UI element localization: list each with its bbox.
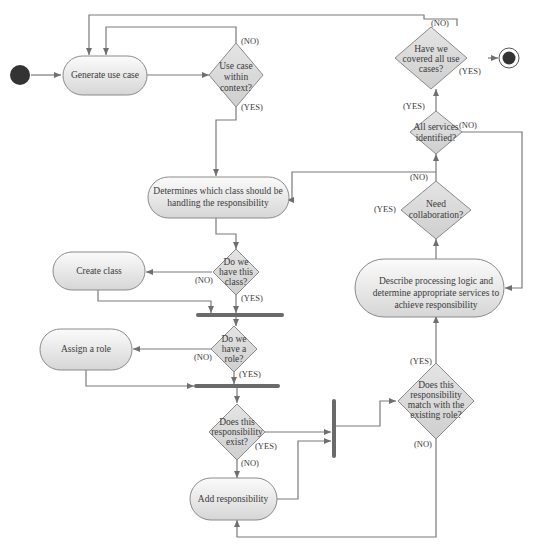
label-line-1: Does this	[418, 380, 454, 390]
label-line-4: existing role?	[410, 410, 461, 420]
label-line-2: responsibility	[410, 390, 462, 400]
action-generate-use-case: Generate use case	[63, 56, 147, 95]
label-line-1: Have we	[414, 44, 448, 54]
label-line-3: class?	[225, 277, 248, 287]
label-line-3: role?	[225, 354, 244, 364]
action-determines-class: Determines which class should be handlin…	[148, 177, 289, 218]
decision-match-existing-role: Does this responsibility match with the …	[398, 363, 474, 439]
label: Assign a role	[61, 344, 111, 354]
label-line-3: match with the	[408, 400, 464, 410]
edge-determines-to-class	[216, 217, 236, 249]
label-role-yes: (YES)	[239, 369, 261, 379]
label-covered-no: (NO)	[431, 18, 449, 28]
label: Create class	[76, 266, 122, 276]
initial-node	[10, 65, 30, 85]
label-match-yes: (YES)	[410, 356, 432, 366]
label-exist-yes: (YES)	[255, 441, 277, 451]
label-line-1: Use case	[219, 61, 253, 71]
decision-all-services-identified: All services identified?	[410, 111, 462, 154]
label-line-1: All services	[413, 122, 458, 132]
label: Generate use case	[71, 70, 139, 80]
edge-add-to-bar	[276, 441, 331, 499]
label-class-no: (NO)	[195, 275, 213, 285]
label-line-1: Determines which class should be	[153, 186, 282, 196]
label-line-1: Does this	[219, 417, 255, 427]
label-services-no: (NO)	[459, 120, 477, 130]
edge-covered-no	[89, 15, 457, 55]
action-add-responsibility: Add responsibility	[190, 478, 277, 520]
action-create-class: Create class	[53, 252, 145, 290]
label-services-yes: (YES)	[403, 101, 425, 111]
label-match-no: (NO)	[414, 439, 432, 449]
label-line-1: Need	[426, 199, 446, 209]
final-node	[499, 48, 519, 68]
label-covered-yes: (YES)	[459, 66, 481, 76]
label-line-2: responsibility	[211, 427, 263, 437]
label-line-2: handling the responsibility	[167, 198, 269, 208]
label-line-2: covered all use	[403, 54, 460, 64]
label-line-2: have a	[222, 344, 247, 354]
label-line-2: have this	[219, 267, 253, 277]
label-line-3: context?	[220, 83, 252, 93]
label-collab-no: (NO)	[410, 172, 428, 182]
activity-diagram: Generate use case Determines which class…	[0, 0, 535, 547]
label-line-3: exist?	[226, 437, 248, 447]
label-line-2: collaboration?	[409, 210, 463, 220]
label-context-yes: (YES)	[241, 102, 263, 112]
label-exist-no: (NO)	[241, 458, 259, 468]
edge-context-no	[106, 27, 236, 55]
label-line-1: Describe processing logic and	[379, 276, 493, 286]
edge-context-yes	[216, 107, 236, 176]
label-line-2: within	[224, 72, 249, 82]
decision-have-class: Do we have this class?	[213, 249, 259, 295]
label-line-2: determine appropriate services to	[373, 288, 500, 298]
label-line-3: cases?	[419, 64, 443, 74]
action-describe-processing: Describe processing logic and determine …	[355, 259, 504, 317]
decision-responsibility-exist: Does this responsibility exist?	[209, 404, 265, 460]
edge-bar-to-match	[336, 401, 396, 426]
label-line-3: achieve responsibility	[394, 300, 477, 310]
decision-covered-all-use-cases: Have we covered all use cases?	[395, 27, 467, 89]
decision-need-collaboration: Need collaboration?	[401, 181, 471, 239]
label-collab-yes: (YES)	[374, 204, 396, 214]
decision-use-case-within-context: Use case within context?	[209, 43, 263, 107]
decision-have-role: Do we have a role?	[211, 326, 257, 372]
label-line-2: identified?	[416, 133, 457, 143]
action-assign-role: Assign a role	[40, 329, 132, 370]
label-line-1: Do we	[221, 334, 246, 344]
edge-create-to-bar	[98, 290, 211, 313]
label-line-1: Do we	[223, 257, 248, 267]
label-role-no: (NO)	[194, 352, 212, 362]
label-context-no: (NO)	[241, 36, 259, 46]
label-class-yes: (YES)	[241, 293, 263, 303]
edge-assign-to-bar	[86, 369, 194, 386]
label: Add responsibility	[198, 494, 269, 504]
